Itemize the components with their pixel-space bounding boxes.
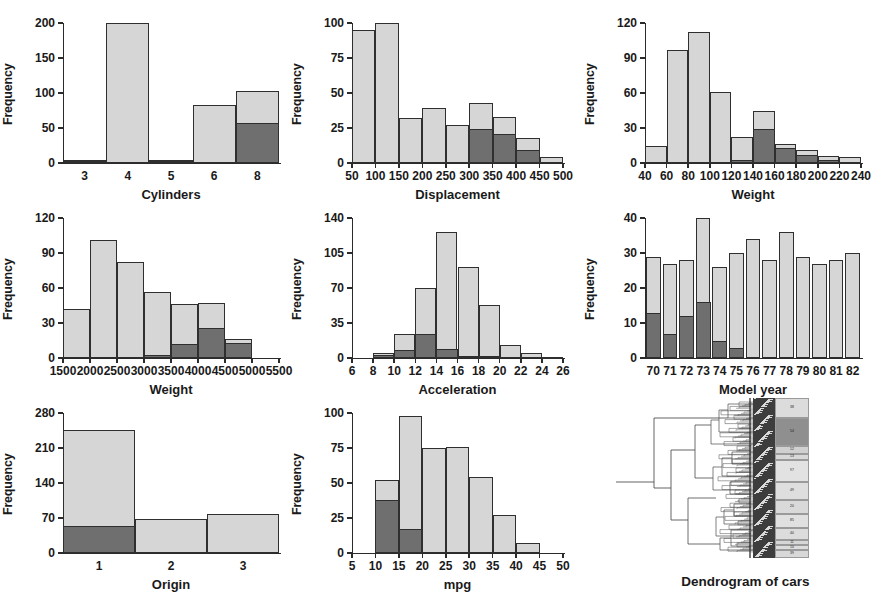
x-tick — [539, 554, 541, 558]
leaf-tick — [754, 398, 756, 399]
x-tick — [515, 554, 517, 558]
dendrogram-panel: 385412139749208540111039Dendrogram of ca… — [610, 398, 881, 603]
x-tick — [562, 554, 564, 558]
x-tick — [422, 554, 424, 558]
x-tick-label: 50 — [541, 560, 585, 572]
histogram-bar — [493, 515, 516, 553]
leaf-tick — [754, 414, 756, 415]
cluster-size-label: 97 — [775, 469, 809, 472]
cluster-size-label: 12 — [775, 448, 809, 451]
dendrogram-leaf-strip — [753, 398, 775, 558]
y-tick — [347, 447, 352, 449]
histogram-bar — [516, 543, 539, 553]
y-axis-label: Frequency — [290, 454, 304, 515]
x-tick — [445, 554, 447, 558]
cluster-size-label: 20 — [775, 505, 809, 508]
cluster-size-label: 49 — [775, 489, 809, 492]
cluster-size-label: 54 — [775, 430, 809, 433]
y-tick-label: 100 — [306, 407, 344, 419]
x-tick — [468, 554, 470, 558]
leaf-tick — [754, 462, 756, 463]
x-axis-label: mpg — [312, 577, 603, 592]
cluster-size-label: 13 — [775, 455, 809, 458]
dendrogram-tree — [610, 398, 881, 558]
y-tick-label: 0 — [306, 547, 344, 559]
x-tick — [398, 554, 400, 558]
cluster-size-label: 40 — [775, 532, 809, 535]
cluster-size-label: 10 — [775, 546, 809, 549]
y-tick-label: 75 — [306, 442, 344, 454]
leaf-tick — [754, 493, 756, 494]
leaf-tick — [754, 541, 756, 542]
cluster-size-label: 85 — [775, 519, 809, 522]
x-tick — [351, 554, 353, 558]
cluster-size-label: 39 — [775, 552, 809, 555]
leaf-tick — [754, 430, 756, 431]
figure-canvas: 05010015020034568FrequencyCylinders02550… — [0, 0, 881, 609]
x-tick — [375, 554, 377, 558]
cluster-size-label: 11 — [775, 541, 809, 544]
y-tick-label: 25 — [306, 512, 344, 524]
histogram-bar — [422, 448, 445, 553]
y-tick — [347, 412, 352, 414]
leaf-tick — [754, 446, 756, 447]
leaf-tick — [755, 556, 759, 557]
histogram-bar-highlight — [375, 500, 399, 553]
y-tick-label: 50 — [306, 477, 344, 489]
y-tick — [347, 517, 352, 519]
leaf-tick — [754, 525, 756, 526]
y-tick — [347, 482, 352, 484]
histogram-bar-highlight — [399, 529, 423, 553]
histogram-bar — [399, 416, 422, 553]
histogram-bar — [469, 477, 492, 553]
leaf-tick — [754, 509, 756, 510]
histogram-bar — [446, 447, 469, 553]
x-tick — [492, 554, 494, 558]
dendrogram-cluster-column: 385412139749208540111039 — [775, 398, 809, 558]
leaf-tick — [754, 478, 756, 479]
cluster-size-label: 38 — [775, 406, 809, 409]
histogram-bar — [375, 480, 398, 553]
dendrogram-caption: Dendrogram of cars — [610, 574, 881, 589]
